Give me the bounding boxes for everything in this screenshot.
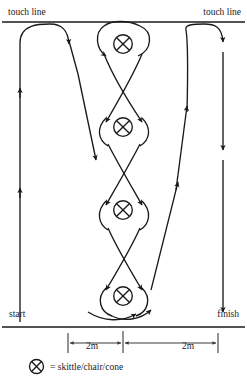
left-ascending-path (20, 24, 50, 322)
dimension-label-left: 2m (86, 342, 98, 352)
cone-marker-4 (114, 287, 133, 306)
right-ascending-path (151, 24, 204, 290)
legend: = skittle/chair/cone (28, 358, 123, 375)
touch-line-label-left: touch line (8, 8, 46, 18)
cone-marker-3 (114, 201, 133, 220)
cone-marker-group (114, 35, 133, 306)
legend-text: = skittle/chair/cone (50, 362, 123, 372)
right-descending-path (204, 24, 223, 312)
start-label: start (9, 310, 25, 320)
cone-marker-2 (114, 118, 133, 137)
drill-course-illustration (0, 0, 247, 379)
finish-label: finish (217, 310, 239, 320)
cone-marker-icon (28, 358, 45, 375)
touch-line-label-right: touch line (203, 8, 241, 18)
agility-drill-diagram: touch line touch line start finish 2m 2m… (0, 0, 247, 379)
left-descending-path (50, 24, 96, 160)
cone-marker-1 (114, 35, 133, 54)
dimension-label-right: 2m (182, 342, 194, 352)
slalom-weave-path (88, 22, 151, 320)
